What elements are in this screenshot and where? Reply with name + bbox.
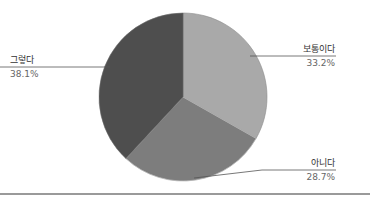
bottom-divider bbox=[0, 193, 370, 195]
pie-chart: 그렇다 38.1% 보통이다 33.2% 아니다 28.7% bbox=[0, 0, 370, 198]
label-normal-pct: 33.2% bbox=[306, 58, 335, 68]
label-no-pct: 28.7% bbox=[306, 172, 335, 182]
label-no-name: 아니다 bbox=[311, 158, 336, 168]
label-yes-name: 그렇다 bbox=[10, 55, 35, 65]
label-normal-name: 보통이다 bbox=[303, 44, 336, 54]
label-yes-pct: 38.1% bbox=[10, 69, 39, 79]
